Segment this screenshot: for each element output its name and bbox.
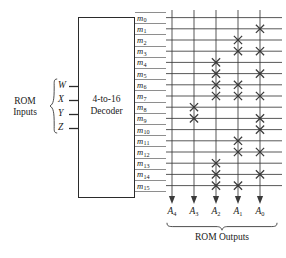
minterm-cell: m0 bbox=[135, 12, 166, 23]
output-label: A4 bbox=[161, 206, 183, 216]
minterm-label: m8 bbox=[137, 102, 146, 112]
output-label: A0 bbox=[249, 206, 271, 216]
connection-x-marker bbox=[256, 25, 264, 33]
input-row-z: Z bbox=[58, 122, 80, 135]
minterm-cell: m1 bbox=[135, 23, 166, 34]
minterm-label: m1 bbox=[137, 24, 146, 34]
minterm-cell: m9 bbox=[135, 113, 166, 124]
minterm-label: m10 bbox=[137, 125, 149, 135]
minterm-cell: m4 bbox=[135, 57, 166, 68]
bit-line-arrowhead bbox=[169, 196, 175, 204]
minterm-cell: m13 bbox=[135, 158, 166, 169]
connection-x-marker bbox=[256, 114, 264, 122]
minterm-label: m12 bbox=[137, 147, 149, 157]
minterm-label: m4 bbox=[137, 57, 146, 67]
minterm-cell: m5 bbox=[135, 68, 166, 79]
output-brace-icon bbox=[166, 222, 278, 231]
minterm-label: m2 bbox=[137, 35, 146, 45]
minterm-cell: m14 bbox=[135, 169, 166, 180]
bit-line-arrowhead bbox=[191, 196, 197, 204]
connection-x-marker bbox=[234, 47, 242, 55]
minterm-cell: m8 bbox=[135, 102, 166, 113]
minterm-label: m14 bbox=[137, 169, 149, 179]
minterm-label: m7 bbox=[137, 91, 146, 101]
decoder-label-line2: Decoder bbox=[78, 106, 135, 118]
output-label: A1 bbox=[227, 206, 249, 216]
connection-x-marker bbox=[234, 36, 242, 44]
input-label-z: Z bbox=[58, 122, 68, 132]
decoder-label-line1: 4-to-16 bbox=[78, 94, 135, 106]
connection-x-marker bbox=[212, 70, 220, 78]
minterm-cell: m12 bbox=[135, 146, 166, 157]
connection-x-marker bbox=[234, 92, 242, 100]
minterm-label: m0 bbox=[137, 13, 146, 23]
connection-x-marker bbox=[234, 81, 242, 89]
minterm-cell: m6 bbox=[135, 79, 166, 90]
connection-x-marker bbox=[190, 114, 198, 122]
input-brace-icon bbox=[49, 78, 58, 134]
minterm-label: m5 bbox=[137, 69, 146, 79]
connection-x-marker bbox=[212, 58, 220, 66]
input-row-x: X bbox=[58, 94, 80, 107]
input-label-x: X bbox=[58, 94, 68, 104]
connection-x-marker bbox=[256, 70, 264, 78]
rom-inputs-label-line1: ROM bbox=[2, 96, 48, 107]
connection-x-marker bbox=[234, 148, 242, 156]
connection-x-marker bbox=[256, 47, 264, 55]
minterm-cell: m2 bbox=[135, 34, 166, 45]
minterm-label: m15 bbox=[137, 181, 149, 191]
bit-line-arrowhead bbox=[235, 196, 241, 204]
rom-outputs-label: ROM Outputs bbox=[160, 232, 284, 242]
minterm-label: m3 bbox=[137, 46, 146, 56]
connection-x-marker bbox=[256, 92, 264, 100]
connection-x-marker bbox=[256, 126, 264, 134]
connection-x-marker bbox=[212, 81, 220, 89]
connection-x-marker bbox=[234, 182, 242, 190]
input-label-w: W bbox=[58, 80, 68, 90]
output-label: A3 bbox=[183, 206, 205, 216]
input-label-y: Y bbox=[58, 108, 68, 118]
rom-diagram: ROM Inputs W X Y Z 4-to- bbox=[0, 0, 286, 258]
input-row-y: Y bbox=[58, 108, 80, 121]
connection-x-marker bbox=[256, 170, 264, 178]
minterm-cell: m11 bbox=[135, 135, 166, 146]
minterm-label: m9 bbox=[137, 113, 146, 123]
minterm-label: m13 bbox=[137, 158, 149, 168]
connection-x-marker bbox=[212, 159, 220, 167]
connection-x-marker bbox=[190, 103, 198, 111]
bit-line-arrowhead bbox=[213, 196, 219, 204]
minterm-cell: m3 bbox=[135, 46, 166, 57]
minterm-stack-bottom-rule bbox=[135, 191, 166, 192]
minterm-label: m11 bbox=[137, 136, 149, 146]
decoder-label: 4-to-16 Decoder bbox=[78, 94, 135, 117]
connection-x-marker bbox=[234, 137, 242, 145]
connection-x-marker bbox=[212, 92, 220, 100]
connection-x-marker bbox=[212, 182, 220, 190]
minterm-label: m6 bbox=[137, 80, 146, 90]
bit-line-arrowhead bbox=[257, 196, 263, 204]
minterm-cell: m7 bbox=[135, 90, 166, 101]
minterm-cell: m10 bbox=[135, 124, 166, 135]
output-label: A2 bbox=[205, 206, 227, 216]
rom-inputs-label: ROM Inputs bbox=[2, 96, 48, 118]
connection-x-marker bbox=[256, 148, 264, 156]
minterm-cell: m15 bbox=[135, 180, 166, 191]
rom-inputs-label-line2: Inputs bbox=[2, 107, 48, 118]
connection-x-marker bbox=[212, 170, 220, 178]
input-row-w: W bbox=[58, 80, 80, 93]
